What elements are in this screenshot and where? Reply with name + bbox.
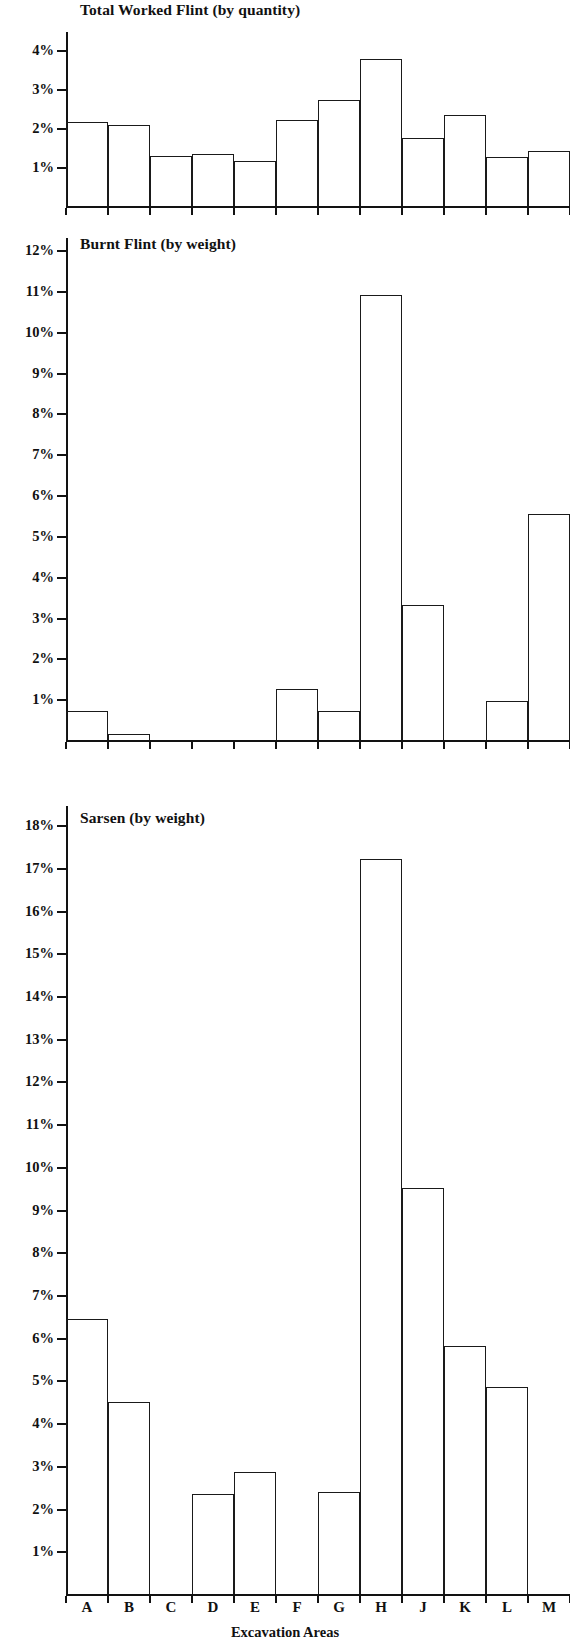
plot-area-1: 1%2%3%4%5%6%7%8%9%10%11%12% <box>66 238 570 742</box>
chart-panel-burnt-flint: Burnt Flint (by weight) 1%2%3%4%5%6%7%8%… <box>0 238 570 750</box>
bar-A <box>66 1319 108 1594</box>
bar-cell <box>192 32 234 206</box>
bar-cell <box>402 806 444 1594</box>
bar-H <box>360 295 402 740</box>
bar-B <box>108 125 150 206</box>
plot-area-2: 1%2%3%4%5%6%7%8%9%10%11%12%13%14%15%16%1… <box>66 806 570 1596</box>
bar-A <box>66 122 108 206</box>
y-tick-label: 4% <box>0 570 54 585</box>
bar-cell <box>276 32 318 206</box>
bar-cell <box>192 806 234 1594</box>
bar-cell <box>234 32 276 206</box>
bar-cell <box>360 32 402 206</box>
y-tick-label: 8% <box>0 406 54 421</box>
y-tick-label: 10% <box>0 1160 54 1175</box>
x-tick-D <box>192 742 234 749</box>
y-tick-mark <box>57 1167 66 1169</box>
chart-panel-sarsen: Sarsen (by weight) 1%2%3%4%5%6%7%8%9%10%… <box>0 806 570 1596</box>
bar-D <box>192 154 234 206</box>
x-axis-title: Excavation Areas <box>0 1625 570 1640</box>
y-tick-mark <box>57 89 66 91</box>
y-tick-label: 2% <box>0 1502 54 1517</box>
y-tick-label: 5% <box>0 1373 54 1388</box>
y-tick-label: 9% <box>0 366 54 381</box>
x-tick-L <box>486 208 528 215</box>
y-tick-mark <box>57 1252 66 1254</box>
category-label-B: B <box>108 1600 150 1615</box>
bar-F <box>276 689 318 740</box>
y-tick-mark <box>57 250 66 252</box>
y-tick-label: 12% <box>0 1074 54 1089</box>
bar-E <box>234 1472 276 1594</box>
y-tick-label: 17% <box>0 861 54 876</box>
y-tick-mark <box>57 825 66 827</box>
bar-cell <box>444 32 486 206</box>
bar-cell <box>66 32 108 206</box>
y-tick-mark <box>57 618 66 620</box>
bar-M <box>528 514 570 741</box>
bar-cell <box>234 238 276 740</box>
y-tick-mark <box>57 1380 66 1382</box>
x-tick-H <box>360 208 402 215</box>
y-tick-label: 3% <box>0 611 54 626</box>
chart-title-0: Total Worked Flint (by quantity) <box>80 2 300 18</box>
y-tick-mark <box>57 577 66 579</box>
bar-cell <box>318 806 360 1594</box>
x-tick-C <box>150 742 192 749</box>
category-label-H: H <box>360 1600 402 1615</box>
x-tick-J <box>402 208 444 215</box>
category-label-L: L <box>486 1600 528 1615</box>
bar-G <box>318 100 360 206</box>
x-tick-K <box>444 742 486 749</box>
bar-cell <box>360 806 402 1594</box>
y-tick-mark <box>57 1039 66 1041</box>
figure-root: Total Worked Flint (by quantity) 1%2%3%4… <box>0 0 570 1642</box>
y-tick-mark <box>57 50 66 52</box>
bar-cell <box>276 806 318 1594</box>
x-tick-J <box>402 742 444 749</box>
x-tick-group-0 <box>66 208 570 215</box>
y-tick-mark <box>57 332 66 334</box>
x-tick-L <box>486 742 528 749</box>
y-tick-label: 13% <box>0 1032 54 1047</box>
bar-L <box>486 701 528 740</box>
bar-A <box>66 711 108 740</box>
y-tick-mark <box>57 1124 66 1126</box>
category-label-row: ABCDEFGHJKLM <box>66 1600 570 1615</box>
bar-J <box>402 605 444 740</box>
bar-cell <box>108 806 150 1594</box>
y-tick-label: 3% <box>0 1459 54 1474</box>
y-tick-mark <box>57 413 66 415</box>
bar-group-1 <box>66 238 570 740</box>
category-label-G: G <box>318 1600 360 1615</box>
x-tick-C <box>150 208 192 215</box>
bar-cell <box>108 32 150 206</box>
y-tick-label: 10% <box>0 325 54 340</box>
x-tick-M <box>528 742 570 749</box>
y-tick-label: 15% <box>0 946 54 961</box>
bar-K <box>444 115 486 206</box>
x-tick-G <box>318 208 360 215</box>
bar-cell <box>486 238 528 740</box>
bar-cell <box>318 32 360 206</box>
y-tick-label: 2% <box>0 121 54 136</box>
bar-cell <box>108 238 150 740</box>
bar-cell <box>528 238 570 740</box>
bar-K <box>444 1346 486 1594</box>
bar-cell <box>150 32 192 206</box>
y-tick-mark <box>57 911 66 913</box>
bar-cell <box>66 238 108 740</box>
y-tick-mark <box>57 1551 66 1553</box>
x-tick-K <box>444 208 486 215</box>
y-tick-label: 1% <box>0 160 54 175</box>
bar-cell <box>150 238 192 740</box>
bar-B <box>108 734 150 740</box>
y-tick-label: 1% <box>0 692 54 707</box>
y-tick-label: 2% <box>0 651 54 666</box>
bar-D <box>192 1494 234 1594</box>
y-tick-mark <box>57 291 66 293</box>
y-tick-mark <box>57 1338 66 1340</box>
y-tick-label: 3% <box>0 82 54 97</box>
bar-G <box>318 711 360 740</box>
x-tick-E <box>234 742 276 749</box>
